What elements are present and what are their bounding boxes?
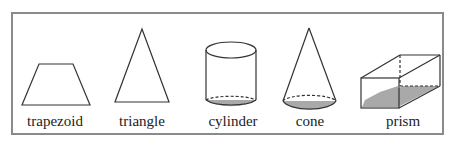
label-prism: prism: [386, 113, 420, 130]
prism-shape: [361, 55, 440, 108]
cone-shape: [283, 28, 336, 109]
triangle-shape: [115, 29, 169, 102]
cylinder-shape: [206, 42, 256, 106]
trapezoid-shape: [22, 64, 90, 105]
label-triangle: triangle: [119, 113, 165, 130]
label-cone: cone: [296, 113, 324, 130]
label-trapezoid: trapezoid: [27, 113, 83, 130]
label-cylinder: cylinder: [208, 113, 257, 130]
